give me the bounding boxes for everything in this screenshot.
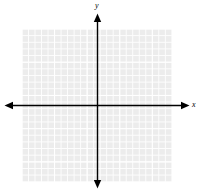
x-axis-label: x [192, 101, 196, 109]
y-axis-label: y [95, 2, 99, 10]
y-axis [94, 14, 101, 189]
coordinate-plane: y x [0, 0, 203, 192]
y-axis-arrow-down-icon [94, 180, 101, 189]
x-axis-arrow-left-icon [5, 102, 14, 109]
x-axis-arrow-right-icon [181, 102, 190, 109]
axes-group [0, 0, 203, 192]
y-axis-arrow-up-icon [94, 14, 101, 23]
